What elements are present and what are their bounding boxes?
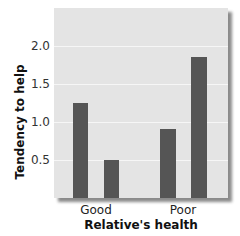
bar-poor-2 (191, 57, 207, 198)
plot-area (54, 8, 228, 198)
xtick-poor: Poor (153, 203, 213, 217)
ytick-2-0: 2.0 (20, 40, 50, 52)
xtick-good: Good (66, 203, 126, 217)
bar-poor-1 (160, 129, 176, 198)
bar-good-1 (73, 103, 88, 198)
bar-good-2 (104, 160, 119, 198)
gridline-2-0 (54, 46, 228, 47)
x-axis-label: Relative's health (84, 218, 198, 232)
y-axis-label: Tendency to help (13, 64, 27, 179)
